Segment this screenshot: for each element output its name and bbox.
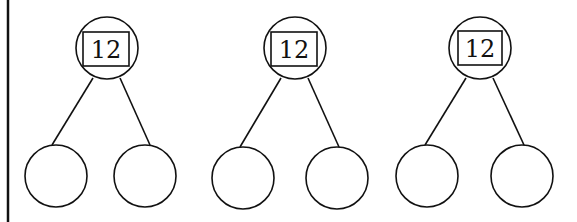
connector-left: [52, 78, 93, 145]
number-bond-1: 12: [25, 17, 176, 207]
connector-right: [493, 78, 524, 145]
whole-value: 12: [91, 36, 122, 64]
connector-left: [425, 78, 466, 145]
part-circle-right[interactable]: [306, 147, 368, 209]
part-circle-right[interactable]: [491, 145, 553, 207]
number-bond-2: 12: [212, 17, 368, 209]
part-circle-right[interactable]: [114, 145, 176, 207]
number-bonds-diagram: 12 12 12: [0, 0, 577, 222]
whole-value: 12: [465, 35, 496, 63]
whole-value: 12: [279, 36, 310, 64]
connector-right: [120, 78, 150, 145]
connector-left: [240, 78, 281, 147]
part-circle-left[interactable]: [212, 147, 274, 209]
connector-right: [308, 78, 339, 147]
part-circle-left[interactable]: [25, 145, 87, 207]
number-bond-3: 12: [396, 17, 553, 207]
part-circle-left[interactable]: [396, 145, 458, 207]
